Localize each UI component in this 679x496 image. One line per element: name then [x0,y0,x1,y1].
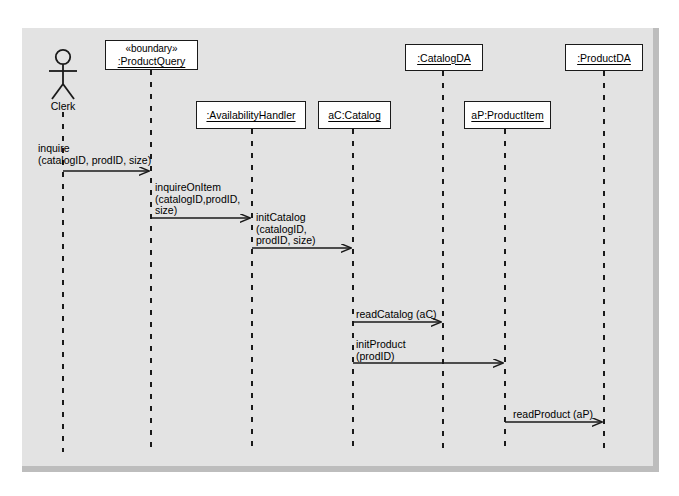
lifeline-box-catalogda[interactable]: :CatalogDA [405,44,483,71]
message-label-initcatalog: initCatalog (catalogID, prodID, size) [256,212,316,247]
message-arrow-group [63,171,602,422]
message-label-readproduct: readProduct (aP) [513,409,593,421]
message-label-readcatalog: readCatalog (aC) [356,309,437,321]
lifeline-stereotype-productquery: «boundary» [126,43,178,55]
lifeline-box-productquery[interactable]: «boundary» :ProductQuery [105,40,198,70]
sequence-diagram-canvas [0,0,679,496]
lifeline-label-productquery: :ProductQuery [118,55,186,67]
lifeline-label-accatalog: aC:Catalog [328,109,381,121]
message-label-inquire: inquire (catalogID, prodID, size) [38,143,151,166]
lifeline-label-productda: :ProductDA [577,52,631,64]
lifeline-label-approductitem: aP:ProductItem [471,109,543,121]
lifeline-label-availabilityhandler: :AvailabilityHandler [206,109,295,121]
lifeline-box-productda[interactable]: :ProductDA [565,44,643,71]
lifeline-label-catalogda: :CatalogDA [417,52,471,64]
actor-label-clerk: Clerk [43,100,83,112]
message-label-initproduct: initProduct (prodID) [356,339,406,362]
lifeline-box-accatalog[interactable]: aC:Catalog [318,101,391,129]
diagram-stage: Clerk «boundary» :ProductQuery :Availabi… [0,0,679,496]
message-label-inquireonitem: inquireOnItem (catalogID,prodID, size) [155,182,240,217]
lifeline-box-availabilityhandler[interactable]: :AvailabilityHandler [196,101,306,129]
lifeline-box-approductitem[interactable]: aP:ProductItem [464,101,551,129]
actor-icon [49,50,77,99]
